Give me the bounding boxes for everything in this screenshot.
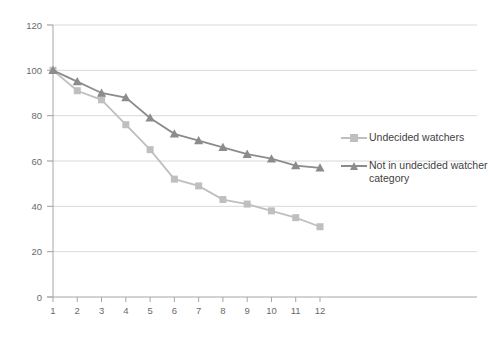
legend-label: Not in undecided watcher category: [367, 159, 489, 185]
data-point-marker: [170, 129, 179, 137]
data-point-marker: [122, 121, 129, 128]
x-tick-label: 10: [266, 305, 277, 316]
legend-item-undecided-watchers: Undecided watchers: [341, 131, 489, 144]
x-tick-label: 12: [315, 305, 326, 316]
series-square: [50, 67, 324, 230]
y-tick-label: 80: [31, 110, 42, 121]
data-point-marker: [97, 88, 106, 96]
y-tick-label: 120: [26, 20, 42, 31]
x-tick-label: 9: [245, 305, 250, 316]
data-point-marker: [219, 196, 226, 203]
data-series-layer: [48, 66, 324, 231]
series-line: [53, 70, 320, 167]
x-tick-label: 1: [50, 305, 55, 316]
data-point-marker: [268, 207, 275, 214]
x-tick-label: 8: [220, 305, 225, 316]
legend-item-not-in-undecided-watcher-category: Not in undecided watcher category: [341, 159, 489, 185]
data-point-marker: [73, 77, 82, 85]
data-point-marker: [317, 223, 324, 230]
data-point-marker: [244, 201, 251, 208]
x-tick-label: 6: [172, 305, 177, 316]
x-tick-label: 5: [147, 305, 152, 316]
legend-marker-triangle-icon: [341, 160, 367, 172]
y-tick-label: 60: [31, 156, 42, 167]
data-point-marker: [195, 182, 202, 189]
x-axis-tick-labels: 123456789101112: [50, 305, 325, 316]
series-triangle: [48, 66, 324, 172]
data-point-marker: [171, 176, 178, 183]
y-tick-label: 40: [31, 201, 42, 212]
data-point-marker: [292, 214, 299, 221]
y-tick-label: 100: [26, 65, 42, 76]
y-axis-tick-labels: 020406080100120: [26, 20, 42, 303]
data-point-marker: [74, 87, 81, 94]
x-tick-label: 7: [196, 305, 201, 316]
y-tick-label: 20: [31, 246, 42, 257]
x-tick-label: 3: [99, 305, 104, 316]
x-tick-label: 2: [75, 305, 80, 316]
legend-label: Undecided watchers: [367, 131, 464, 144]
x-tick-label: 4: [123, 305, 128, 316]
legend-marker-square-icon: [341, 132, 367, 144]
chart-container: 020406080100120 123456789101112 Undecide…: [0, 0, 489, 337]
y-tick-label: 0: [37, 292, 42, 303]
data-point-marker: [147, 146, 154, 153]
series-line: [53, 70, 320, 226]
data-point-marker: [98, 96, 105, 103]
chart-legend: Undecided watchers Not in undecided watc…: [341, 131, 489, 200]
x-tick-label: 11: [291, 305, 301, 316]
